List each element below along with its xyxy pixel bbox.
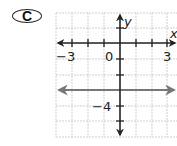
tick-label-neg-3: −3: [56, 49, 75, 64]
coordinate-graph: y x −3 0 3 −4: [0, 0, 177, 146]
tick-label-neg-4: −4: [92, 99, 111, 114]
tick-label-origin: 0: [105, 49, 113, 64]
y-axis-label: y: [123, 14, 132, 29]
tick-label-pos-3: 3: [163, 49, 171, 64]
x-axis-label: x: [169, 26, 177, 41]
